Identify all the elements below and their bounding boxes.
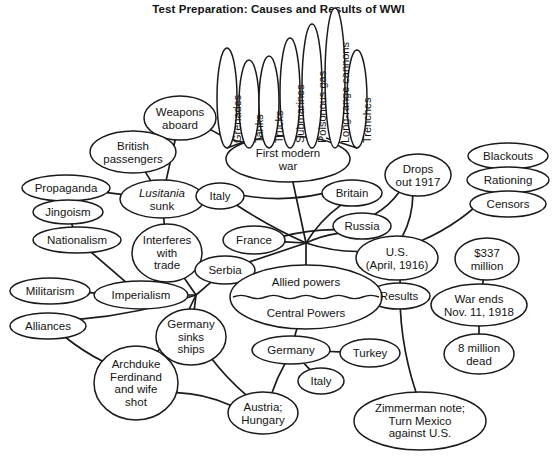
- edge-france-to-hub-center: [285, 242, 306, 243]
- node-trenches[interactable]: [347, 50, 367, 148]
- edge-alliances-to-archduke: [66, 338, 103, 362]
- edge-propaganda-to-lusitania-sunk: [107, 193, 121, 195]
- node-war-ends[interactable]: [431, 284, 527, 326]
- node-austria-hungary[interactable]: [228, 392, 298, 434]
- diagram-canvas: [0, 0, 557, 465]
- node-germany[interactable]: [252, 336, 330, 364]
- node-archduke[interactable]: [94, 346, 178, 420]
- node-alliances[interactable]: [10, 313, 86, 339]
- node-powers[interactable]: [230, 265, 382, 329]
- node-submarines[interactable]: [280, 38, 300, 148]
- edge-drops-out-1917-to-us-april-1916: [403, 196, 413, 237]
- node-imperialism[interactable]: [94, 281, 188, 309]
- node-nationalism[interactable]: [33, 227, 121, 253]
- node-blackouts[interactable]: [468, 143, 548, 169]
- node-cannons[interactable]: [325, 8, 345, 148]
- node-interferes-trade[interactable]: [132, 224, 202, 282]
- node-jingoism[interactable]: [33, 200, 103, 224]
- node-poisongas[interactable]: [302, 24, 322, 148]
- node-italy-top[interactable]: [196, 183, 244, 209]
- edge-powers-to-germany: [295, 329, 297, 336]
- node-italy-bottom[interactable]: [298, 368, 344, 394]
- node-trucks[interactable]: [259, 56, 279, 148]
- node-propaganda[interactable]: [22, 175, 110, 201]
- node-france[interactable]: [223, 226, 285, 254]
- edge-nationalism-to-imperialism: [91, 252, 125, 281]
- node-turkey[interactable]: [340, 339, 400, 367]
- node-british-passengers[interactable]: [90, 131, 176, 173]
- node-layer: [10, 8, 549, 450]
- node-russia[interactable]: [333, 213, 391, 239]
- edge-germany-to-austria-hungary: [272, 364, 285, 393]
- edge-lusitania-sunk-to-interferes-trade: [164, 218, 165, 224]
- node-grenades[interactable]: [217, 48, 237, 148]
- edge-british-passengers-to-lusitania-sunk: [145, 172, 150, 181]
- node-britain[interactable]: [322, 180, 382, 206]
- node-lusitania-sunk[interactable]: [120, 180, 204, 218]
- node-dollars-337[interactable]: [455, 238, 519, 280]
- node-zimmerman-note[interactable]: [354, 392, 486, 450]
- node-tanks[interactable]: [239, 60, 259, 148]
- edge-germany-sinks-to-austria-hungary: [212, 359, 246, 394]
- node-eight-million[interactable]: [444, 334, 514, 374]
- node-us-april-1916[interactable]: [356, 236, 438, 280]
- node-censors[interactable]: [470, 191, 546, 217]
- node-militarism[interactable]: [10, 278, 90, 304]
- edge-britain-to-italy-top: [244, 194, 322, 199]
- edge-germany-to-italy-bottom: [304, 363, 310, 369]
- concept-map-page: Test Preparation: Causes and Results of …: [0, 0, 557, 465]
- edge-archduke-to-austria-hungary: [177, 393, 231, 406]
- node-drops-out-1917[interactable]: [385, 154, 451, 196]
- edge-us-april-1916-to-hub-center: [306, 243, 358, 252]
- node-rationing[interactable]: [467, 167, 549, 193]
- edge-hub-left-to-serbia: [196, 282, 211, 295]
